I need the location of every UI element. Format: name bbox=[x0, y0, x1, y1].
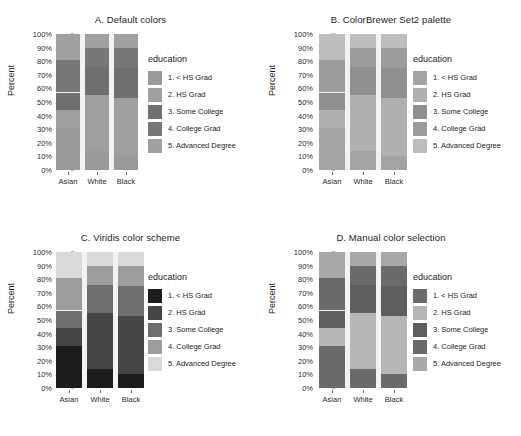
legend-item[interactable]: 3. Some College bbox=[413, 103, 501, 120]
bar-segment[interactable] bbox=[87, 266, 113, 285]
bar-segment[interactable] bbox=[56, 328, 82, 346]
legend-swatch-icon bbox=[413, 357, 427, 371]
y-tick-label: 40% bbox=[298, 329, 313, 338]
bar-segment[interactable] bbox=[319, 252, 345, 278]
legend-item[interactable]: 2. HS Grad bbox=[413, 86, 501, 103]
bar-segment[interactable] bbox=[381, 98, 407, 156]
stacked-bar[interactable] bbox=[381, 252, 407, 388]
bar-segment[interactable] bbox=[114, 156, 138, 170]
bar-segment[interactable] bbox=[56, 278, 82, 311]
bar-segment[interactable] bbox=[85, 95, 109, 151]
bar-segment[interactable] bbox=[85, 151, 109, 170]
bar-segment[interactable] bbox=[350, 252, 376, 266]
legend-item[interactable]: 5. Advanced Degree bbox=[413, 355, 501, 372]
bar-segment[interactable] bbox=[350, 151, 376, 170]
legend-item[interactable]: 1. < HS Grad bbox=[413, 287, 501, 304]
stacked-bar[interactable] bbox=[87, 252, 113, 388]
bar-segment[interactable] bbox=[114, 34, 138, 48]
bar-segment[interactable] bbox=[118, 316, 144, 374]
bar-segment[interactable] bbox=[319, 110, 345, 128]
bar-segment[interactable] bbox=[319, 60, 345, 93]
bar-segment[interactable] bbox=[118, 252, 144, 266]
bar-segment[interactable] bbox=[381, 286, 407, 316]
bar-segment[interactable] bbox=[350, 369, 376, 388]
bar-segment[interactable] bbox=[381, 316, 407, 374]
bar-segment[interactable] bbox=[118, 374, 144, 388]
bar-segment[interactable] bbox=[350, 95, 376, 151]
legend-item[interactable]: 3. Some College bbox=[148, 103, 236, 120]
bar-segment[interactable] bbox=[350, 34, 376, 48]
panel-d: D. Manual color selectionPercent0%10%20%… bbox=[261, 218, 521, 436]
legend-item[interactable]: 1. < HS Grad bbox=[148, 69, 236, 86]
bar-segment[interactable] bbox=[87, 313, 113, 369]
bar-segment[interactable] bbox=[350, 313, 376, 369]
bar-segment[interactable] bbox=[319, 278, 345, 311]
y-tick-label: 30% bbox=[298, 125, 313, 134]
stacked-bar[interactable] bbox=[114, 34, 138, 170]
legend-item[interactable]: 5. Advanced Degree bbox=[148, 355, 236, 372]
legend-item[interactable]: 1. < HS Grad bbox=[148, 287, 236, 304]
stacked-bar[interactable] bbox=[56, 34, 80, 170]
bar-segment[interactable] bbox=[114, 48, 138, 68]
bar-segment[interactable] bbox=[56, 252, 82, 278]
legend-item[interactable]: 4. College Grad bbox=[413, 120, 501, 137]
bar-segment[interactable] bbox=[350, 285, 376, 314]
bar-segment[interactable] bbox=[381, 156, 407, 170]
legend-item[interactable]: 4. College Grad bbox=[413, 338, 501, 355]
bar-segment[interactable] bbox=[319, 328, 345, 346]
bar-segment[interactable] bbox=[381, 68, 407, 98]
bar-segment[interactable] bbox=[56, 93, 80, 111]
legend-item[interactable]: 4. College Grad bbox=[148, 338, 236, 355]
stacked-bar[interactable] bbox=[350, 34, 376, 170]
legend-item[interactable]: 2. HS Grad bbox=[148, 86, 236, 103]
bar-segment[interactable] bbox=[319, 34, 345, 60]
legend-item[interactable]: 5. Advanced Degree bbox=[148, 137, 236, 154]
bar-segment[interactable] bbox=[56, 60, 80, 93]
bar-segment[interactable] bbox=[85, 48, 109, 67]
bar-segment[interactable] bbox=[118, 286, 144, 316]
stacked-bar[interactable] bbox=[350, 252, 376, 388]
bar-segment[interactable] bbox=[350, 67, 376, 96]
bar-segment[interactable] bbox=[114, 98, 138, 156]
bar-segment[interactable] bbox=[114, 68, 138, 98]
bar-segment[interactable] bbox=[87, 369, 113, 388]
bars-container: AsianWhiteBlack bbox=[56, 252, 144, 388]
bar-segment[interactable] bbox=[319, 311, 345, 329]
stacked-bar[interactable] bbox=[319, 252, 345, 388]
legend-item[interactable]: 5. Advanced Degree bbox=[413, 137, 501, 154]
bar-segment[interactable] bbox=[319, 93, 345, 111]
bar-segment[interactable] bbox=[381, 374, 407, 388]
bar-segment[interactable] bbox=[56, 311, 82, 329]
legend-item[interactable]: 3. Some College bbox=[413, 321, 501, 338]
y-tick-label: 100% bbox=[294, 30, 313, 39]
bar-segment[interactable] bbox=[381, 48, 407, 68]
legend-item[interactable]: 4. College Grad bbox=[148, 120, 236, 137]
stacked-bar[interactable] bbox=[381, 34, 407, 170]
stacked-bar[interactable] bbox=[85, 34, 109, 170]
bar-segment[interactable] bbox=[319, 128, 345, 170]
bar-segment[interactable] bbox=[381, 34, 407, 48]
bar-segment[interactable] bbox=[56, 34, 80, 60]
stacked-bar[interactable] bbox=[319, 34, 345, 170]
bar-segment[interactable] bbox=[350, 266, 376, 285]
bar-segment[interactable] bbox=[85, 67, 109, 96]
stacked-bar[interactable] bbox=[118, 252, 144, 388]
legend-item[interactable]: 3. Some College bbox=[148, 321, 236, 338]
bar-segment[interactable] bbox=[319, 346, 345, 388]
legend-item[interactable]: 1. < HS Grad bbox=[413, 69, 501, 86]
bar-segment[interactable] bbox=[56, 128, 80, 170]
bar-segment[interactable] bbox=[56, 110, 80, 128]
legend-item[interactable]: 2. HS Grad bbox=[148, 304, 236, 321]
legend-swatch-icon bbox=[413, 306, 427, 320]
bar-segment[interactable] bbox=[381, 252, 407, 266]
x-tick-label: Asian bbox=[323, 395, 342, 404]
bar-segment[interactable] bbox=[350, 48, 376, 67]
bar-segment[interactable] bbox=[56, 346, 82, 388]
bar-segment[interactable] bbox=[85, 34, 109, 48]
bar-segment[interactable] bbox=[87, 252, 113, 266]
bar-segment[interactable] bbox=[87, 285, 113, 314]
bar-segment[interactable] bbox=[118, 266, 144, 286]
legend-item[interactable]: 2. HS Grad bbox=[413, 304, 501, 321]
stacked-bar[interactable] bbox=[56, 252, 82, 388]
bar-segment[interactable] bbox=[381, 266, 407, 286]
